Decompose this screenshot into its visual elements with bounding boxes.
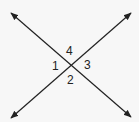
intersecting-lines-diagram: 4 1 3 2: [0, 0, 139, 122]
angle-label-1: 1: [52, 59, 59, 73]
angle-label-3: 3: [84, 58, 91, 72]
angle-label-4: 4: [66, 44, 73, 58]
angle-label-2: 2: [67, 73, 74, 87]
